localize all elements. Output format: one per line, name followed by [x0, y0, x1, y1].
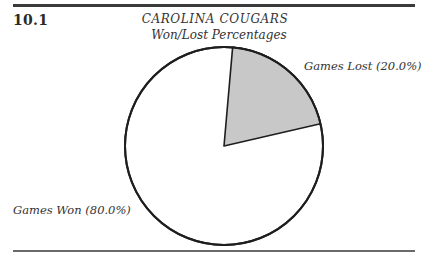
pie-chart [0, 0, 428, 260]
bottom-rule [13, 250, 415, 252]
label-games-won: Games Won (80.0%) [13, 203, 131, 217]
label-games-lost: Games Lost (20.0%) [304, 59, 422, 73]
